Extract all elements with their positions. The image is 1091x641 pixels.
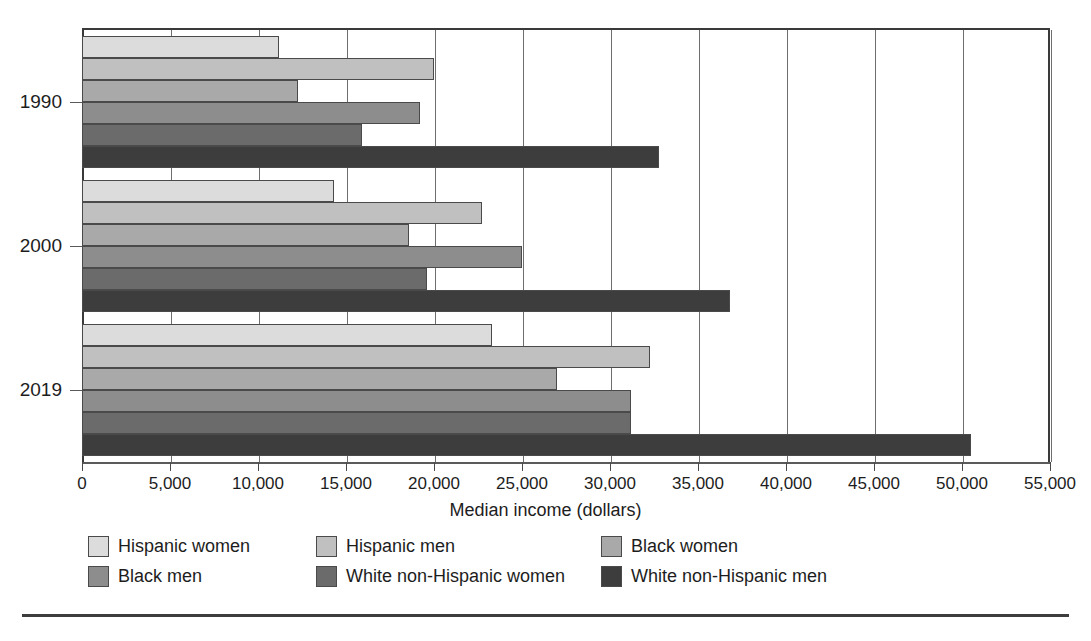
legend-label: Hispanic women — [118, 536, 250, 557]
x-tick-label-20000: 20,000 — [408, 474, 460, 494]
x-tick-label-10000: 10,000 — [232, 474, 284, 494]
bar-2019-black-women — [82, 368, 557, 390]
y-tick-2000 — [70, 246, 82, 247]
bar-1990-hispanic-men — [82, 58, 434, 80]
bar-1990-white-non-hispanic-men — [82, 146, 659, 168]
bar-2019-black-men — [82, 390, 631, 412]
legend-item-white-non-hispanic-men[interactable]: White non-Hispanic men — [601, 566, 901, 587]
bar-2000-black-men — [82, 246, 522, 268]
legend-row-1: Hispanic womenHispanic menBlack women — [88, 536, 968, 557]
x-tick-15000 — [346, 462, 347, 471]
chart-figure: 05,00010,00015,00020,00025,00030,00035,0… — [0, 0, 1091, 641]
x-tick-label-50000: 50,000 — [936, 474, 988, 494]
x-axis-line — [82, 462, 1050, 464]
legend-swatch-icon — [601, 536, 622, 557]
x-tick-label-15000: 15,000 — [320, 474, 372, 494]
x-tick-label-45000: 45,000 — [848, 474, 900, 494]
legend-item-white-non-hispanic-women[interactable]: White non-Hispanic women — [316, 566, 601, 587]
y-tick-2019 — [70, 390, 82, 391]
legend-item-hispanic-women[interactable]: Hispanic women — [88, 536, 316, 557]
x-tick-50000 — [962, 462, 963, 471]
bar-2019-white-non-hispanic-men — [82, 434, 971, 456]
x-tick-label-25000: 25,000 — [496, 474, 548, 494]
y-axis-label-2000: 2000 — [0, 235, 62, 257]
y-axis-label-2019: 2019 — [0, 379, 62, 401]
legend-item-black-men[interactable]: Black men — [88, 566, 316, 587]
x-tick-10000 — [258, 462, 259, 471]
bar-2019-white-non-hispanic-women — [82, 412, 631, 434]
x-tick-20000 — [434, 462, 435, 471]
bottom-rule — [22, 614, 1069, 617]
bar-2019-hispanic-men — [82, 346, 650, 368]
x-tick-label-30000: 30,000 — [584, 474, 636, 494]
bar-1990-black-men — [82, 102, 420, 124]
legend-item-hispanic-men[interactable]: Hispanic men — [316, 536, 601, 557]
legend-item-black-women[interactable]: Black women — [601, 536, 901, 557]
bar-2019-hispanic-women — [82, 324, 492, 346]
legend-label: White non-Hispanic men — [631, 566, 827, 587]
y-axis-label-1990: 1990 — [0, 91, 62, 113]
x-tick-label-5000: 5,000 — [149, 474, 192, 494]
legend-swatch-icon — [316, 566, 337, 587]
legend-label: White non-Hispanic women — [346, 566, 565, 587]
bar-group-1990 — [0, 36, 1091, 168]
x-tick-label-55000: 55,000 — [1024, 474, 1076, 494]
legend-label: Black women — [631, 536, 738, 557]
x-tick-45000 — [874, 462, 875, 471]
x-tick-30000 — [610, 462, 611, 471]
bar-2000-hispanic-men — [82, 202, 482, 224]
legend-label: Black men — [118, 566, 202, 587]
y-tick-1990 — [70, 102, 82, 103]
legend-swatch-icon — [316, 536, 337, 557]
legend-swatch-icon — [88, 536, 109, 557]
legend-label: Hispanic men — [346, 536, 455, 557]
legend-swatch-icon — [88, 566, 109, 587]
x-tick-25000 — [522, 462, 523, 471]
legend-swatch-icon — [601, 566, 622, 587]
legend-row-2: Black menWhite non-Hispanic womenWhite n… — [88, 566, 968, 587]
bar-group-2019 — [0, 324, 1091, 456]
x-tick-label-0: 0 — [77, 474, 86, 494]
x-tick-0 — [82, 462, 83, 471]
bar-1990-white-non-hispanic-women — [82, 124, 362, 146]
x-tick-label-40000: 40,000 — [760, 474, 812, 494]
bar-1990-black-women — [82, 80, 298, 102]
x-tick-35000 — [698, 462, 699, 471]
x-tick-40000 — [786, 462, 787, 471]
bar-1990-hispanic-women — [82, 36, 279, 58]
x-axis-title: Median income (dollars) — [0, 500, 1091, 521]
bar-2000-white-non-hispanic-men — [82, 290, 730, 312]
x-tick-55000 — [1050, 462, 1051, 471]
bar-group-2000 — [0, 180, 1091, 312]
x-tick-label-35000: 35,000 — [672, 474, 724, 494]
x-tick-5000 — [170, 462, 171, 471]
bar-2000-black-women — [82, 224, 409, 246]
chart-legend: Hispanic womenHispanic menBlack womenBla… — [88, 536, 968, 596]
bar-2000-white-non-hispanic-women — [82, 268, 427, 290]
bar-2000-hispanic-women — [82, 180, 334, 202]
